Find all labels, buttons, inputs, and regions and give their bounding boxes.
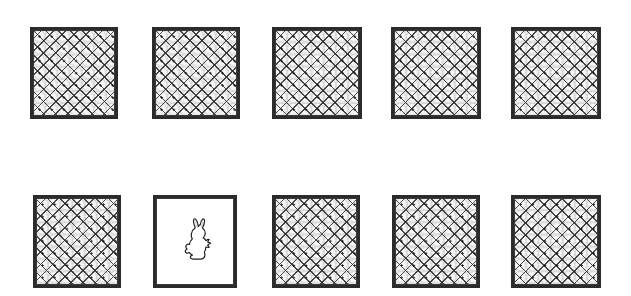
cage-interior-empty <box>156 198 234 285</box>
cage-r1-c5[interactable] <box>511 27 601 119</box>
cage-interior <box>275 198 357 285</box>
paper-grain <box>395 198 477 285</box>
paper-grain <box>275 198 357 285</box>
cage-interior <box>514 30 598 116</box>
paper-grain <box>33 30 115 116</box>
cage-interior <box>275 30 359 116</box>
wire-mesh-icon <box>514 198 598 285</box>
wire-mesh-icon <box>155 30 237 116</box>
cage-r1-c4[interactable] <box>391 27 481 119</box>
wire-mesh-icon <box>33 30 115 116</box>
cage-r1-c1[interactable] <box>30 27 118 119</box>
paper-grain <box>36 198 118 285</box>
cage-r2-c5[interactable] <box>511 195 601 288</box>
paper-grain <box>275 30 359 116</box>
wire-mesh-icon <box>514 30 598 116</box>
wire-mesh-icon <box>275 198 357 285</box>
cage-r2-c4[interactable] <box>392 195 480 288</box>
cage-r2-c2[interactable] <box>153 195 237 288</box>
paper-grain <box>514 198 598 285</box>
cage-interior <box>394 30 478 116</box>
wire-mesh-icon <box>275 30 359 116</box>
cage-r1-c3[interactable] <box>272 27 362 119</box>
cage-interior <box>33 30 115 116</box>
cage-interior <box>36 198 118 285</box>
cage-interior <box>155 30 237 116</box>
cage-r2-c1[interactable] <box>33 195 121 288</box>
cage-r2-c3[interactable] <box>272 195 360 288</box>
cage-grid-scene <box>0 0 631 296</box>
wire-mesh-icon <box>394 30 478 116</box>
paper-grain <box>155 30 237 116</box>
paper-grain <box>514 30 598 116</box>
wire-mesh-icon <box>36 198 118 285</box>
wire-mesh-icon <box>395 198 477 285</box>
cage-interior <box>514 198 598 285</box>
cage-interior <box>395 198 477 285</box>
paper-grain <box>394 30 478 116</box>
cage-r1-c2[interactable] <box>152 27 240 119</box>
